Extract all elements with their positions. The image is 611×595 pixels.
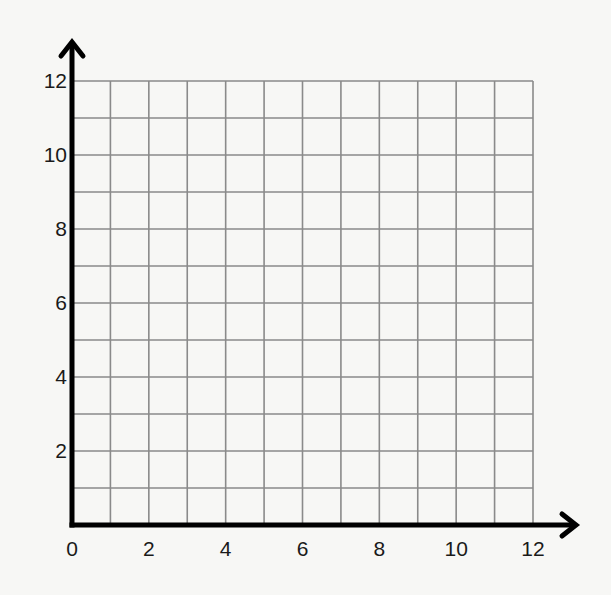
axes [61,42,576,536]
x-axis-tick-labels: 024681012 [66,537,545,560]
grid-lines [72,81,533,525]
y-tick-label: 10 [44,143,67,166]
x-tick-label: 6 [297,537,309,560]
x-tick-label: 2 [143,537,155,560]
x-tick-label: 0 [66,537,78,560]
y-axis-tick-labels: 24681012 [44,69,68,462]
x-tick-label: 12 [521,537,544,560]
x-tick-label: 8 [373,537,385,560]
y-tick-label: 8 [55,217,67,240]
x-tick-label: 4 [220,537,232,560]
y-tick-label: 12 [44,69,67,92]
y-tick-label: 4 [55,365,67,388]
y-tick-label: 6 [55,291,67,314]
y-tick-label: 2 [55,439,67,462]
x-tick-label: 10 [444,537,467,560]
coordinate-grid-chart: 024681012 24681012 [0,0,611,595]
